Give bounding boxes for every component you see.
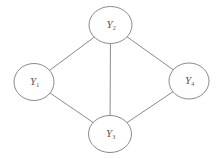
node-y3: Y3 [89, 116, 132, 153]
node-y1: Y1 [14, 64, 54, 101]
node-y2: Y2 [89, 7, 132, 44]
node-y4: Y4 [169, 63, 209, 99]
nodes: Y1Y2Y3Y4 [14, 7, 209, 153]
node-label-subscript: 2 [113, 25, 116, 31]
node-label-subscript: 3 [112, 134, 115, 140]
graph-diagram: Y1Y2Y3Y4 [0, 0, 222, 159]
node-label-subscript: 1 [36, 82, 39, 88]
node-label-subscript: 4 [191, 81, 194, 87]
